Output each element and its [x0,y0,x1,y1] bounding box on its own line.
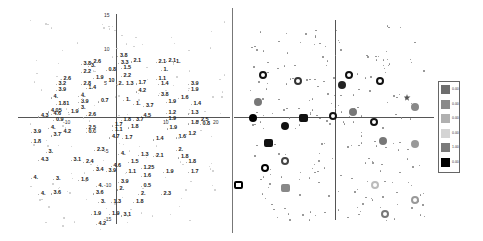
point-label: 2. [179,146,184,152]
background-point [114,203,115,204]
point-label: 3. [49,148,54,154]
background-point [66,108,67,109]
background-point [210,47,211,48]
background-point [77,42,78,43]
background-point [103,160,104,161]
background-point [221,96,222,97]
data-point [178,98,179,99]
background-point [252,124,253,125]
background-point [118,95,119,96]
background-point [170,214,171,215]
point-label: 0.7 [101,97,109,103]
background-point [357,189,358,190]
background-point [138,99,139,100]
background-point [119,143,120,144]
point-label: 4. [121,150,126,156]
background-point [122,197,123,198]
point-label: 1. [176,58,181,64]
background-point [250,90,251,91]
background-point [367,56,368,57]
background-point [100,229,101,230]
data-point [81,64,82,65]
data-point [131,61,132,62]
background-point [188,88,189,89]
data-point [31,142,32,143]
background-point [123,144,124,145]
background-point [274,144,275,145]
data-point [96,186,97,187]
background-point [85,181,86,182]
square-marker [234,181,243,189]
point-label: 1.8 [131,123,139,129]
legend: 0.000.000.000.001.000.00 [438,81,460,173]
background-point [263,50,264,51]
background-point [336,30,337,31]
data-point [94,150,95,151]
background-point [285,154,286,155]
background-point [372,199,373,200]
disc-marker [338,81,346,89]
background-point [310,112,311,113]
disc-marker [379,137,387,145]
background-point [222,91,223,92]
background-point [210,168,211,169]
data-point [122,138,123,139]
background-point [298,108,299,109]
background-point [344,123,345,124]
point-label: 1.8 [189,158,197,164]
background-point [328,195,329,196]
data-point [118,63,119,64]
background-point [319,118,320,119]
background-point [422,204,423,205]
background-point [165,90,166,91]
point-label: 2.1 [156,152,164,158]
data-point [158,84,159,85]
ring-marker [370,118,378,126]
background-point [36,73,37,74]
background-point [329,123,330,124]
data-point [166,61,167,62]
data-point [141,168,142,169]
background-point [156,145,157,146]
data-point [121,215,122,216]
background-point [310,211,311,212]
background-point [388,65,389,66]
data-point [156,79,157,80]
background-point [312,109,313,110]
background-point [340,175,341,176]
ring-marker [381,210,389,218]
background-point [219,79,220,80]
data-point [93,193,94,194]
background-point [62,225,63,226]
point-label: 3.8 [161,91,169,97]
ring-marker [294,77,302,85]
background-point [410,59,411,60]
legend-swatch [441,100,450,109]
background-point [286,33,287,34]
background-point [338,191,339,192]
background-point [71,146,72,147]
data-point [188,84,189,85]
background-point [126,43,127,44]
legend-label: 0.00 [452,87,459,91]
data-point [200,124,201,125]
background-point [423,193,424,194]
legend-label: 0.00 [452,102,459,106]
background-point [260,121,261,122]
ring-marker [259,71,267,79]
data-point [138,194,139,195]
point-label: 1.81 [59,100,70,106]
background-point [392,182,393,183]
background-point [47,24,48,25]
data-point [86,132,87,133]
y-tick-label: 10 [104,46,110,52]
point-label: 3.8 [120,52,128,58]
point-label: 1.9 [169,115,177,121]
data-point [123,84,124,85]
background-point [383,59,384,60]
background-point [133,46,134,47]
background-point [94,130,95,131]
background-point [314,164,315,165]
background-point [300,172,301,173]
background-point [327,60,328,61]
